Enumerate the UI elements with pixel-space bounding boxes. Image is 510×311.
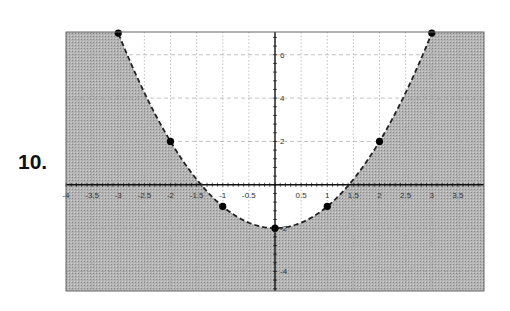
- x-tick-label: -2: [167, 191, 175, 200]
- x-tick-label: -0.5: [242, 191, 256, 200]
- x-tick-label: 2.5: [400, 191, 412, 200]
- x-tick-label: -2.5: [137, 191, 151, 200]
- x-tick-label: 1.5: [348, 191, 360, 200]
- x-tick-label: -1: [219, 191, 227, 200]
- y-tick-label: -4: [280, 267, 288, 276]
- data-point: [219, 203, 226, 210]
- x-tick-label: -1.5: [190, 191, 204, 200]
- x-tick-label: 0.5: [296, 191, 308, 200]
- x-tick-label: -3: [115, 191, 123, 200]
- data-point: [428, 29, 435, 36]
- x-tick-label: 3.5: [452, 191, 464, 200]
- data-point: [376, 138, 383, 145]
- inequality-graph: -4-3.5-3-2.5-2-1.5-1-0.50.511.522.533.56…: [0, 0, 510, 311]
- x-tick-label: 3: [430, 191, 435, 200]
- data-point: [167, 138, 174, 145]
- x-tick-label: -3.5: [85, 191, 99, 200]
- y-tick-label: 4: [280, 94, 285, 103]
- data-point: [271, 225, 278, 232]
- y-tick-label: 2: [280, 137, 285, 146]
- y-tick-label: -2: [280, 224, 288, 233]
- data-point: [115, 29, 122, 36]
- x-tick-label: 1: [325, 191, 330, 200]
- x-tick-label: 2: [377, 191, 382, 200]
- y-tick-label: 6: [280, 51, 285, 60]
- data-point: [324, 203, 331, 210]
